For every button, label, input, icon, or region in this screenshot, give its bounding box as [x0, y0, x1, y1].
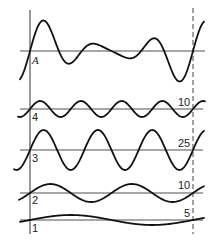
harmonic-2-amplitude: 10	[178, 179, 190, 191]
fourier-diagram: A 4 10 3 25 2 10 1 5	[0, 0, 214, 244]
harmonic-3-amplitude: 25	[178, 137, 190, 149]
harmonic-1-label: 1	[32, 222, 38, 234]
composite-label: A	[31, 54, 39, 66]
harmonic-4-label: 4	[32, 111, 38, 123]
harmonic-2-label: 2	[32, 194, 38, 206]
harmonic-1-amplitude: 5	[184, 207, 190, 219]
harmonic-3-label: 3	[32, 152, 38, 164]
harmonic-4-amplitude: 10	[178, 96, 190, 108]
